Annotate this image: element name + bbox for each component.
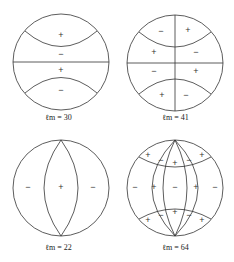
sphere-lm41-diagram: − + + − − + + − <box>117 0 234 131</box>
sign-label: − <box>183 90 188 100</box>
panel-label: ℓm = 41 <box>117 113 234 122</box>
sign-label: + <box>172 158 177 168</box>
sign-label: + <box>58 182 63 192</box>
sign-label: + <box>193 66 198 76</box>
panel-label: ℓm = 22 <box>0 243 117 252</box>
sign-label: + <box>172 207 177 217</box>
sign-label: − <box>186 155 191 165</box>
sign-label: + <box>199 150 204 160</box>
sign-label: + <box>145 150 150 160</box>
sign-label: + <box>151 47 156 57</box>
sign-label: − <box>186 210 191 220</box>
sign-label: + <box>151 182 156 192</box>
sign-label: − <box>132 182 137 192</box>
panel-lm41: − + + − − + + − ℓm = 41 <box>117 0 234 131</box>
panel-lm22: − + − ℓm = 22 <box>0 131 117 262</box>
sign-label: + <box>199 215 204 225</box>
sign-label: − <box>25 182 30 192</box>
sign-label: − <box>158 210 163 220</box>
sphere-lm30-diagram: + − + − <box>0 0 117 131</box>
panel-lm64: + − + − + − + − + − + − + − + ℓm = 64 <box>117 131 234 262</box>
panel-lm30: + − + − ℓm = 30 <box>0 0 117 131</box>
panel-label: ℓm = 64 <box>117 243 234 252</box>
sign-label: − <box>90 182 95 192</box>
sign-label: + <box>58 30 63 40</box>
sign-label: − <box>158 26 163 36</box>
sign-label: − <box>212 182 217 192</box>
sign-label: − <box>158 155 163 165</box>
sign-label: + <box>145 215 150 225</box>
sign-label: + <box>185 25 190 35</box>
sign-label: − <box>58 85 63 95</box>
sign-label: − <box>172 182 177 192</box>
sign-label: − <box>58 49 63 59</box>
sign-label: + <box>58 65 63 75</box>
sign-label: − <box>193 47 198 57</box>
sign-label: + <box>193 182 198 192</box>
sign-label: − <box>151 66 156 76</box>
panel-label: ℓm = 30 <box>0 113 117 122</box>
sign-label: + <box>159 90 164 100</box>
